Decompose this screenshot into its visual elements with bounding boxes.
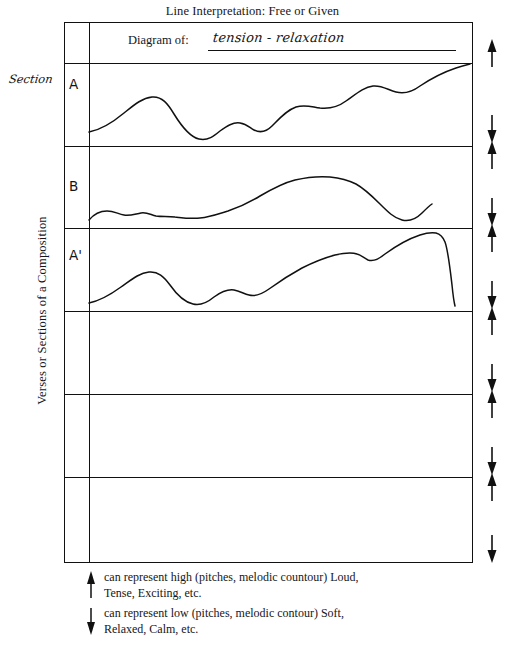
legend-low-line2: Relaxed, Calm, etc. [104, 622, 434, 638]
grid-line-3 [65, 228, 472, 229]
label-column-divider [89, 23, 90, 562]
direction-arrow-column [481, 22, 503, 563]
legend-item-low: can represent low (pitches, melodic cont… [82, 606, 482, 638]
worksheet-page: Line Interpretation: Free or Given Verse… [0, 0, 505, 660]
arrow-up-icon [481, 472, 503, 502]
grid-line-4 [65, 311, 472, 312]
arrow-down-icon [481, 534, 503, 564]
arrow-up-icon [481, 389, 503, 419]
grid-line-5 [65, 394, 472, 395]
diagram-of-underline [208, 50, 456, 51]
legend-high-line1: can represent high (pitches, melodic cou… [104, 570, 434, 586]
legend: can represent high (pitches, melodic cou… [82, 570, 482, 642]
row-label-1: B [69, 178, 78, 194]
row-label-0: A [69, 76, 78, 92]
grid-line-2 [65, 146, 472, 147]
grid-line-1 [65, 63, 472, 64]
diagram-grid [64, 22, 473, 563]
diagram-of-label: Diagram of: [128, 33, 189, 48]
diagram-of-value[interactable]: tension - relaxation [212, 30, 345, 45]
legend-item-high: can represent high (pitches, melodic cou… [82, 570, 482, 602]
arrow-up-icon [481, 306, 503, 336]
section-label: Section [8, 72, 54, 86]
grid-line-6 [65, 477, 472, 478]
page-title: Line Interpretation: Free or Given [0, 4, 505, 19]
arrow-up-icon [481, 38, 503, 68]
legend-high-line2: Tense, Exciting, etc. [104, 586, 434, 602]
vertical-axis-label: Verses or Sections of a Composition [35, 181, 50, 441]
legend-text-low: can represent low (pitches, melodic cont… [104, 606, 434, 637]
arrow-up-icon [481, 223, 503, 253]
legend-low-line1: can represent low (pitches, melodic cont… [104, 606, 434, 622]
arrow-up-icon [82, 571, 100, 599]
arrow-up-icon [481, 140, 503, 170]
row-label-2: A' [69, 247, 82, 263]
arrow-down-icon [82, 607, 100, 635]
legend-text-high: can represent high (pitches, melodic cou… [104, 570, 434, 601]
